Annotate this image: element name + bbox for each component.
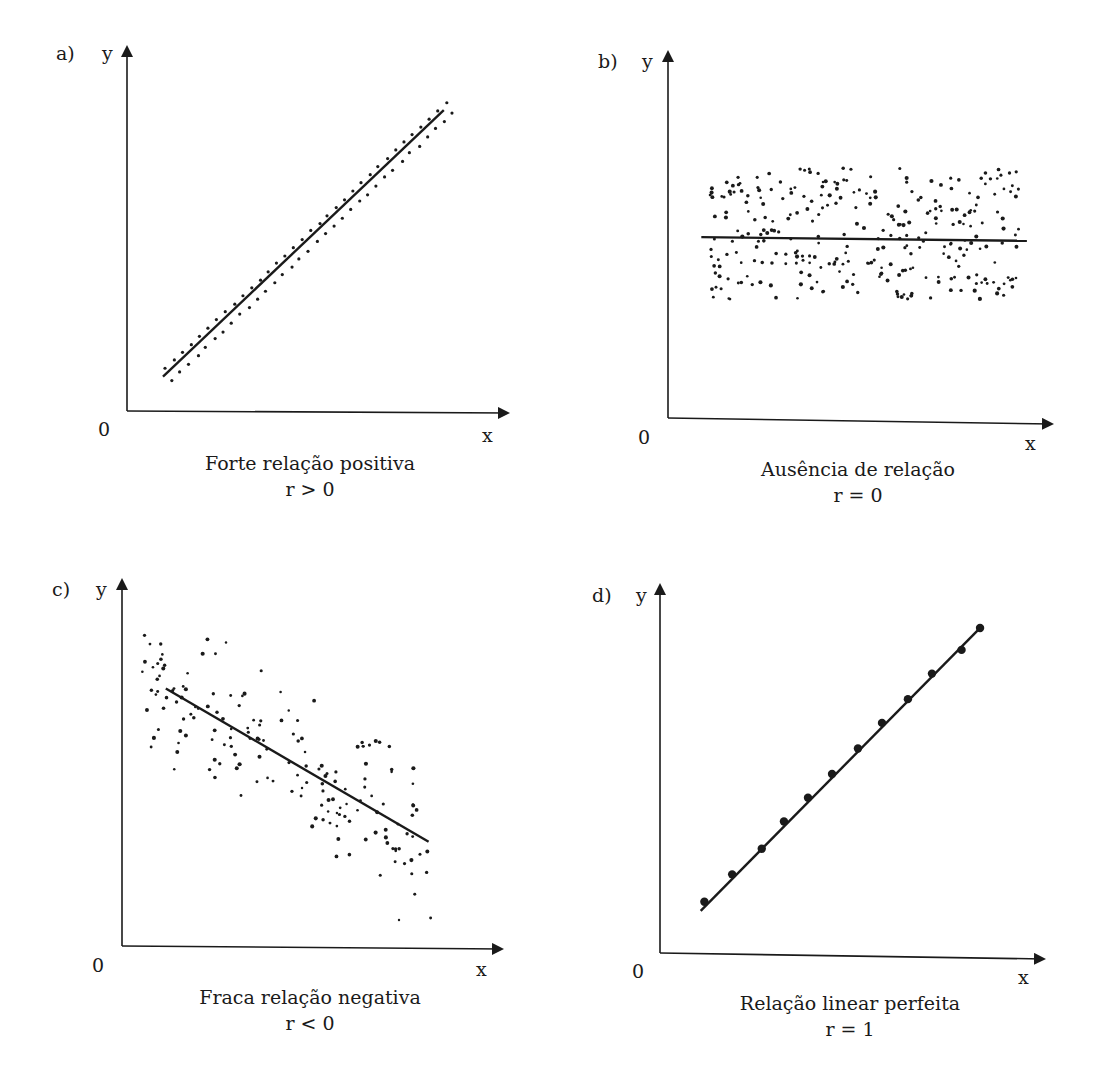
- data-points: [709, 166, 1020, 301]
- data-point: [951, 223, 954, 226]
- data-point: [163, 663, 166, 666]
- data-point: [897, 223, 901, 227]
- data-point: [886, 279, 890, 283]
- data-point: [799, 282, 803, 286]
- data-point: [161, 653, 164, 656]
- data-points: [141, 634, 432, 922]
- data-point: [958, 220, 962, 224]
- data-point: [296, 774, 299, 777]
- data-point: [309, 229, 312, 232]
- data-point: [892, 218, 895, 221]
- data-point: [445, 101, 448, 104]
- data-point: [255, 780, 258, 783]
- data-point: [874, 195, 878, 199]
- data-point: [847, 260, 850, 263]
- data-point: [844, 252, 847, 255]
- data-point: [374, 739, 378, 743]
- data-point: [796, 297, 799, 300]
- data-point: [161, 667, 165, 671]
- data-point: [852, 273, 855, 276]
- data-point: [425, 871, 428, 874]
- data-point: [901, 269, 905, 273]
- data-point: [735, 251, 738, 254]
- data-point: [808, 254, 811, 257]
- data-point: [388, 745, 392, 749]
- data-point: [1015, 170, 1018, 173]
- data-point: [810, 286, 814, 290]
- data-point: [394, 148, 397, 151]
- data-point: [1014, 233, 1017, 236]
- data-point: [206, 637, 210, 641]
- data-point: [865, 192, 868, 195]
- data-point: [733, 190, 736, 193]
- data-point: [950, 187, 954, 191]
- data-point: [143, 634, 146, 637]
- data-point: [175, 700, 178, 703]
- data-point: [229, 694, 232, 697]
- data-point: [955, 260, 958, 263]
- data-point: [206, 704, 210, 708]
- data-point: [975, 282, 978, 285]
- data-point: [181, 351, 184, 354]
- data-point: [759, 196, 762, 199]
- data-point: [310, 824, 314, 828]
- data-point: [993, 261, 996, 264]
- data-point: [824, 179, 828, 183]
- data-point: [803, 169, 806, 172]
- data-point: [720, 287, 723, 290]
- data-point: [739, 182, 742, 185]
- data-point: [795, 262, 798, 265]
- data-point: [838, 270, 841, 273]
- data-point: [292, 732, 295, 735]
- data-point: [725, 253, 728, 256]
- data-point: [385, 841, 389, 845]
- data-point: [321, 789, 324, 792]
- data-point: [833, 181, 836, 184]
- data-point: [212, 692, 215, 695]
- data-point: [283, 254, 286, 257]
- data-point: [320, 764, 324, 768]
- data-point: [937, 280, 941, 284]
- data-point: [802, 195, 805, 198]
- data-point: [223, 743, 226, 746]
- data-point: [974, 234, 978, 238]
- data-point: [808, 261, 811, 264]
- data-point: [781, 197, 784, 200]
- data-point: [817, 242, 820, 245]
- x-axis: [127, 411, 508, 413]
- data-point: [762, 239, 766, 243]
- data-point: [845, 280, 849, 284]
- data-point: [331, 797, 335, 801]
- data-point: [710, 287, 714, 291]
- data-point: [292, 246, 295, 249]
- data-point: [997, 287, 1001, 291]
- data-point: [258, 755, 262, 759]
- data-point: [1015, 245, 1019, 249]
- data-point: [201, 652, 205, 656]
- data-point: [897, 295, 900, 298]
- correlation-value: r = 0: [738, 482, 978, 508]
- data-point: [173, 358, 176, 361]
- data-point: [411, 804, 415, 808]
- data-point: [336, 812, 339, 815]
- panel-c-caption: Fraca relação negativa r < 0: [180, 984, 440, 1036]
- data-point: [869, 196, 872, 199]
- data-point: [275, 262, 278, 265]
- data-point: [1008, 171, 1011, 174]
- data-point: [158, 675, 161, 678]
- data-point: [358, 199, 361, 202]
- data-point: [903, 293, 906, 296]
- data-point: [986, 282, 989, 285]
- data-point: [208, 768, 211, 771]
- data-point: [929, 296, 932, 299]
- data-point: [368, 743, 371, 746]
- data-point: [973, 289, 977, 293]
- data-point: [724, 215, 728, 219]
- data-point: [835, 182, 839, 186]
- data-point: [1002, 294, 1005, 297]
- data-point: [710, 195, 714, 199]
- data-point: [178, 729, 182, 733]
- data-point: [740, 189, 744, 193]
- data-point: [1001, 226, 1005, 230]
- data-point: [394, 847, 397, 850]
